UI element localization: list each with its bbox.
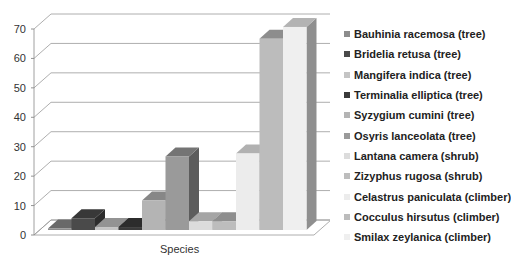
legend-item: Smilax zeylanica (climber) <box>344 227 511 247</box>
bar-smilax <box>283 18 317 230</box>
gridline-depth <box>34 14 51 29</box>
legend-label: Cocculus hirsutus (climber) <box>354 211 499 223</box>
gridline-depth <box>34 132 51 147</box>
legend-label: Zizyphus rugosa (shrub) <box>354 170 482 182</box>
legend-label: Bridelia retusa (tree) <box>354 48 461 60</box>
legend-swatch-icon <box>344 133 350 139</box>
legend-label: Syzygium cumini (tree) <box>354 109 474 121</box>
legend-swatch-icon <box>344 92 350 98</box>
legend-swatch-icon <box>344 51 350 57</box>
legend-item: Bridelia retusa (tree) <box>344 44 511 64</box>
legend-swatch-icon <box>344 112 350 118</box>
legend-swatch-icon <box>344 194 350 200</box>
legend-label: Celastrus paniculata (climber) <box>354 191 511 203</box>
legend-swatch-icon <box>344 234 350 240</box>
legend-label: Terminalia elliptica (tree) <box>354 89 483 101</box>
legend: Bauhinia racemosa (tree)Bridelia retusa … <box>344 24 511 247</box>
gridline-depth <box>34 73 51 88</box>
bar-chart-3d: 010203040506070 <box>0 0 330 266</box>
gridline-depth <box>34 102 51 117</box>
y-tick-label: 50 <box>14 82 26 94</box>
y-tick-label: 70 <box>14 23 26 35</box>
legend-item: Terminalia elliptica (tree) <box>344 85 511 105</box>
legend-item: Bauhinia racemosa (tree) <box>344 24 511 44</box>
legend-swatch-icon <box>344 153 350 159</box>
legend-label: Bauhinia racemosa (tree) <box>354 28 485 40</box>
y-tick-label: 10 <box>14 200 26 212</box>
legend-item: Mangifera indica (tree) <box>344 65 511 85</box>
gridline-depth <box>34 43 51 58</box>
y-tick-label: 20 <box>14 170 26 182</box>
legend-label: Lantana camera (shrub) <box>354 150 479 162</box>
gridline-depth <box>34 191 51 206</box>
legend-label: Smilax zeylanica (climber) <box>354 231 491 243</box>
legend-label: Osyris lanceolata (tree) <box>354 130 476 142</box>
legend-item: Syzygium cumini (tree) <box>344 105 511 125</box>
legend-swatch-icon <box>344 72 350 78</box>
legend-swatch-icon <box>344 214 350 220</box>
gridline-depth <box>34 161 51 176</box>
legend-item: Celastrus paniculata (climber) <box>344 186 511 206</box>
y-tick-label: 30 <box>14 141 26 153</box>
y-tick-label: 60 <box>14 52 26 64</box>
y-tick-label: 40 <box>14 111 26 123</box>
legend-label: Mangifera indica (tree) <box>354 69 471 81</box>
legend-item: Cocculus hirsutus (climber) <box>344 207 511 227</box>
legend-item: Lantana camera (shrub) <box>344 146 511 166</box>
legend-item: Zizyphus rugosa (shrub) <box>344 166 511 186</box>
legend-swatch-icon <box>344 173 350 179</box>
y-tick-label: 0 <box>20 229 26 241</box>
x-axis-label: Species <box>160 243 199 255</box>
legend-item: Osyris lanceolata (tree) <box>344 125 511 145</box>
legend-swatch-icon <box>344 31 350 37</box>
